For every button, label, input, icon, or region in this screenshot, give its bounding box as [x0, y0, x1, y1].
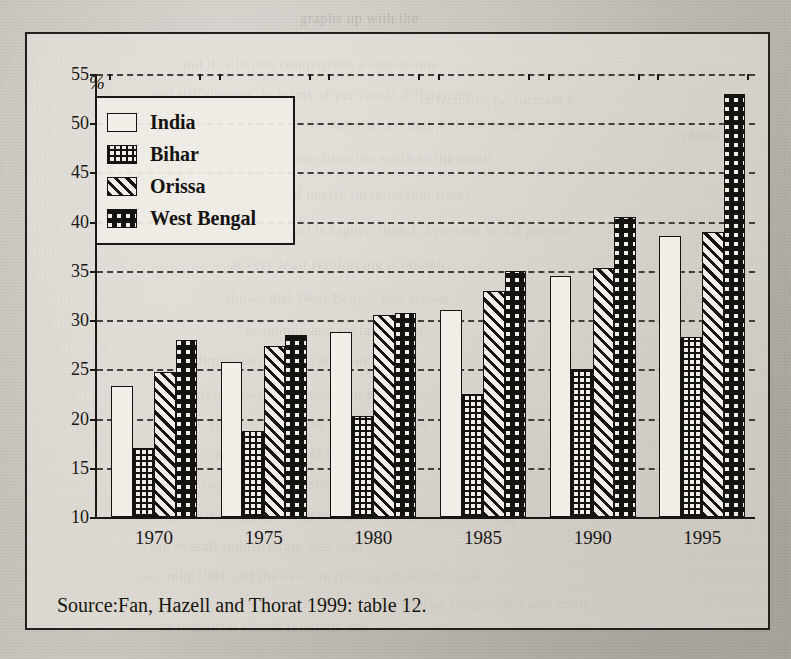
bar: [154, 372, 176, 517]
y-axis-tick-label: 50: [71, 113, 97, 134]
bar: [483, 291, 505, 517]
x-tick-mark: [418, 74, 420, 80]
x-tick-mark: [528, 74, 530, 80]
x-tick-mark: [109, 74, 111, 80]
bar: [681, 337, 703, 517]
legend-item-label: Bihar: [150, 143, 199, 166]
gridline: [97, 320, 755, 322]
y-axis-tick-label: 30: [71, 310, 97, 331]
bar: [571, 369, 593, 517]
bar: [395, 313, 417, 517]
x-axis-tick-label: 1975: [245, 527, 283, 549]
x-axis-tick-label: 1995: [683, 527, 721, 549]
x-tick-mark: [747, 74, 749, 80]
legend-item-bihar: Bihar: [107, 138, 283, 170]
legend-item-label: India: [150, 111, 196, 134]
y-axis-tick-label: 55: [71, 64, 97, 85]
bar: [462, 394, 484, 517]
x-axis-tick-label: 1980: [354, 527, 392, 549]
legend-swatch-icon: [107, 177, 137, 196]
bar: [659, 236, 681, 517]
y-axis-tick-label: 25: [71, 359, 97, 380]
bar: [724, 94, 746, 517]
legend-item-label: Orissa: [150, 175, 206, 198]
x-tick-mark: [438, 74, 440, 80]
x-axis-tick-label: 1985: [464, 527, 502, 549]
bar: [550, 276, 572, 517]
x-axis-tick-label: 1990: [574, 527, 612, 549]
y-axis-tick-label: 15: [71, 457, 97, 478]
bar: [614, 217, 636, 517]
bar: [593, 268, 615, 517]
legend-item-orissa: Orissa: [107, 170, 283, 202]
bar: [176, 340, 198, 517]
x-tick-mark: [328, 74, 330, 80]
bar: [221, 362, 243, 517]
y-axis-tick-label: 45: [71, 162, 97, 183]
bar: [133, 448, 155, 517]
y-axis-tick-label: 35: [71, 260, 97, 281]
y-axis-tick-label: 20: [71, 408, 97, 429]
x-tick-mark: [657, 74, 659, 80]
legend-item-india: India: [107, 106, 283, 138]
bar: [373, 315, 395, 517]
bar: [702, 232, 724, 517]
bar: [330, 332, 352, 517]
x-tick-mark: [199, 74, 201, 80]
bar: [505, 271, 527, 517]
chart-legend: IndiaBiharOrissaWest Bengal: [95, 96, 295, 245]
bar: [440, 310, 462, 517]
legend-swatch-icon: [107, 113, 137, 132]
bar: [264, 346, 286, 517]
x-tick-mark: [638, 74, 640, 80]
legend-item-west-bengal: West Bengal: [107, 202, 283, 234]
figure-caption: Source:Fan, Hazell and Thorat 1999: tabl…: [57, 594, 427, 617]
bar: [285, 335, 307, 517]
bar: [352, 416, 374, 517]
gridline: [97, 271, 755, 273]
y-axis-tick-label: 10: [71, 507, 97, 528]
gridline: [97, 74, 755, 76]
y-axis-tick-label: 40: [71, 211, 97, 232]
bar: [242, 431, 264, 517]
x-tick-mark: [548, 74, 550, 80]
x-tick-mark: [219, 74, 221, 80]
legend-swatch-icon: [107, 145, 137, 164]
bar: [111, 386, 133, 517]
x-axis-tick-label: 1970: [135, 527, 173, 549]
legend-item-label: West Bengal: [150, 207, 256, 230]
figure-frame: % 10152025303540455055 19701975198019851…: [25, 32, 770, 630]
legend-swatch-icon: [107, 209, 137, 228]
x-tick-mark: [309, 74, 311, 80]
